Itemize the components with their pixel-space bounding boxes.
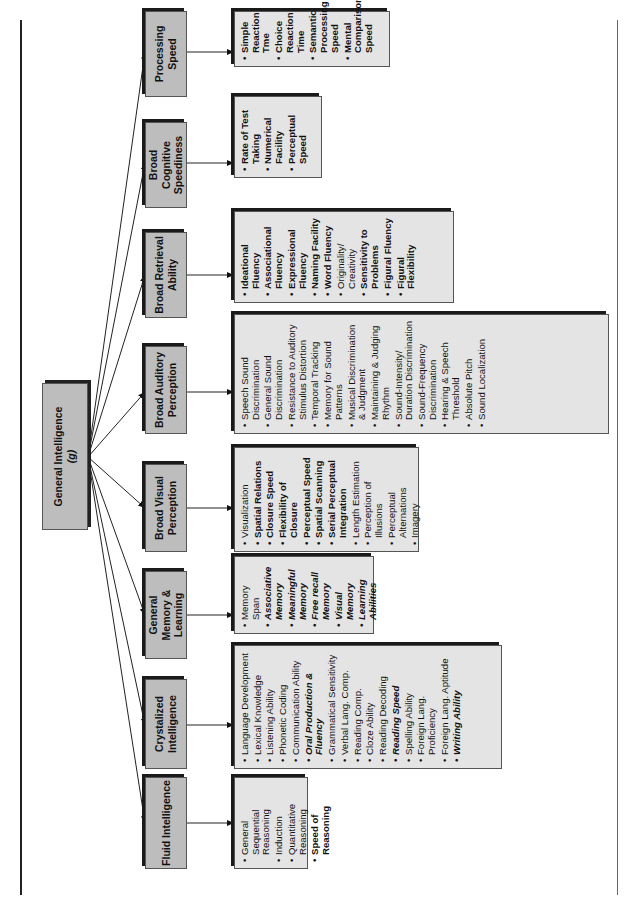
diagram-stage: General Intelligence (g) Fluid Intellige… xyxy=(0,0,631,915)
ability-item: Associative Memory xyxy=(263,561,284,627)
ability-item: Foreign Lang. Proficiency xyxy=(416,650,437,762)
ability-item: Speech Sound Discrimination xyxy=(240,319,261,427)
ability-item: Reading Speed xyxy=(391,650,402,762)
ability-item: Memory for Sound Patterns xyxy=(323,319,344,427)
abilities-broad-visual-perception: VisualizationSpatial RelationsClosure Sp… xyxy=(234,447,419,552)
abilities-fluid-intelligence: General Sequential ReasoningInductionQua… xyxy=(234,777,308,869)
abilities-crystalized-intelligence: Language DevelopmentLexical KnowledgeLis… xyxy=(234,645,502,769)
ability-item: Semantic Processing Speed xyxy=(308,16,340,60)
category-label: Fluid Intelligence xyxy=(160,780,173,866)
abilities-processing-speed: Simple Reaction TmeChoice Reaction TimeS… xyxy=(234,11,390,67)
abilities-broad-cognitive-speediness: Rate of Test TakingNumerical FacilityPer… xyxy=(234,96,322,178)
ability-item: Imagery xyxy=(410,452,421,545)
abilities-broad-auditory-perception: Speech Sound DiscriminationGeneral Sound… xyxy=(234,314,609,434)
category-label: General Memory & Learning xyxy=(147,574,185,656)
ability-list: Simple Reaction TmeChoice Reaction TimeS… xyxy=(240,16,375,60)
category-label: Broad Retrieval Ability xyxy=(153,235,178,315)
ability-item: Naming Facility xyxy=(310,216,321,296)
ability-item: Hearing & Speech Threshold xyxy=(440,319,461,427)
ability-item: Length Estimation xyxy=(351,452,362,545)
category-label: Broad Auditory Perception xyxy=(153,349,178,431)
category-fluid-intelligence: Fluid Intelligence xyxy=(145,777,187,869)
ability-item: Absolute Pitch xyxy=(464,319,475,427)
ability-item: Spatial Relations xyxy=(253,452,264,545)
ability-list: Rate of Test TakingNumerical FacilityPer… xyxy=(240,101,308,171)
ability-item: Simple Reaction Tme xyxy=(240,16,272,60)
ability-item: Reading Decoding xyxy=(378,650,389,762)
abilities-broad-retrieval-ability: Ideational FluencyAssociational FluencyE… xyxy=(234,211,454,303)
ability-list: Language DevelopmentLexical KnowledgeLis… xyxy=(240,650,465,762)
ability-item: Spelling Ability xyxy=(404,650,415,762)
ability-item: Expressional Fluency xyxy=(287,216,308,296)
ability-item: Perceptual Speed xyxy=(287,101,308,171)
ability-item: Cloze Ability xyxy=(365,650,376,762)
ability-item: Meaningful Memory xyxy=(287,561,308,627)
ability-item: Visualization xyxy=(240,452,251,545)
ability-item: Serial Perceptual Integration xyxy=(327,452,348,545)
ability-item: Figural Flexibility xyxy=(396,216,417,296)
root-symbol: (g) xyxy=(65,407,78,507)
ability-item: Musical Discrimination & Judgment xyxy=(347,319,368,427)
root-general-intelligence: General Intelligence (g) xyxy=(42,383,88,530)
ability-item: Lexical Knowledge xyxy=(253,650,264,762)
ability-item: Grammatical Sensitivity xyxy=(327,650,338,762)
ability-item: Associational Fluency xyxy=(263,216,284,296)
category-crystalized-intelligence: Crystalized Intelligence xyxy=(145,679,187,769)
ability-list: Ideational FluencyAssociational FluencyE… xyxy=(240,216,417,296)
ability-item: Listening Ability xyxy=(265,650,276,762)
ability-list: VisualizationSpatial RelationsClosure Sp… xyxy=(240,452,421,545)
ability-item: Memory Span xyxy=(240,561,261,627)
ability-item: Closure Speed xyxy=(265,452,276,545)
root-label: General Intelligence xyxy=(52,407,65,507)
ability-item: Speed of Reasoning xyxy=(310,782,331,862)
ability-item: General Sequential Reasoning xyxy=(240,782,272,862)
category-general-memory-learning: General Memory & Learning xyxy=(145,571,187,659)
ability-item: Spatial Scanning xyxy=(314,452,325,545)
ability-list: Speech Sound DiscriminationGeneral Sound… xyxy=(240,319,487,427)
category-broad-auditory-perception: Broad Auditory Perception xyxy=(145,346,187,434)
category-label: Processing Speed xyxy=(153,14,178,94)
category-broad-cognitive-speediness: Broad Cognitive Speediness xyxy=(145,122,187,208)
ability-item: Figural Fluency xyxy=(383,216,394,296)
ability-item: Free recall Memory xyxy=(310,561,331,627)
category-label: Broad Visual Perception xyxy=(153,467,178,549)
category-broad-retrieval-ability: Broad Retrieval Ability xyxy=(145,232,187,318)
category-label: Broad Cognitive Speediness xyxy=(147,125,185,205)
ability-item: Phonetic Coding xyxy=(278,650,289,762)
ability-list: General Sequential ReasoningInductionQua… xyxy=(240,782,332,862)
ability-item: Maintaining & Judging Rhythm xyxy=(370,319,391,427)
ability-item: Writing Ability xyxy=(452,650,463,762)
ability-item: Perception of Illusions xyxy=(363,452,384,545)
ability-item: Temporal Tracking xyxy=(310,319,321,427)
ability-item: Word Fluency xyxy=(323,216,334,296)
category-broad-visual-perception: Broad Visual Perception xyxy=(145,464,187,552)
ability-item: Sound-Frequency Discrimination xyxy=(417,319,438,427)
ability-item: Language Development xyxy=(240,650,251,762)
ability-item: Resistance to Auditory Stimulus Distorti… xyxy=(287,319,308,427)
ability-item: Verbal Lang. Comp. xyxy=(340,650,351,762)
ability-item: Rate of Test Taking xyxy=(240,101,261,171)
ability-item: Flexibility of Closure xyxy=(278,452,299,545)
ability-item: Foreign Lang. Aptitude xyxy=(440,650,451,762)
ability-item: Sensitivity to Problems xyxy=(359,216,380,296)
ability-item: General Sound Discrimination xyxy=(263,319,284,427)
ability-item: Quantitative Reasoning xyxy=(287,782,308,862)
abilities-general-memory-learning: Memory SpanAssociative MemoryMeaningful … xyxy=(234,556,374,634)
ability-item: Oral Production & Fluency xyxy=(304,650,325,762)
ability-item: Reading Comp. xyxy=(353,650,364,762)
ability-item: Learning Abilities xyxy=(357,561,378,627)
ability-item: Choice Reaction Time xyxy=(274,16,306,60)
ability-item: Mental Comparison Speed xyxy=(343,16,375,60)
ability-item: Visual Memory xyxy=(334,561,355,627)
category-label: Crystalized Intelligence xyxy=(153,682,178,766)
ability-item: Sound Localization xyxy=(477,319,488,427)
ability-item: Perceptual Speed xyxy=(302,452,313,545)
ability-item: Numerical Facility xyxy=(263,101,284,171)
ability-item: Originality/ Creativity xyxy=(336,216,357,296)
category-processing-speed: Processing Speed xyxy=(145,11,187,97)
ability-list: Memory SpanAssociative MemoryMeaningful … xyxy=(240,561,379,627)
ability-item: Communication Ability xyxy=(291,650,302,762)
ability-item: Perceptual Alternations xyxy=(387,452,408,545)
ability-item: Ideational Fluency xyxy=(240,216,261,296)
ability-item: Induction xyxy=(274,782,285,862)
